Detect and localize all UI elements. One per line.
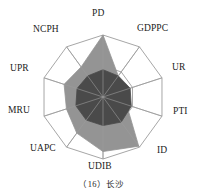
axis-label-ur: UR <box>172 63 185 73</box>
axis-label-pd: PD <box>92 9 104 19</box>
radar-chart-figure: PDGDPPCURPTIIDUDIBUAPCMRUUPRNCPH （16）长沙 <box>0 0 203 191</box>
axis-label-mru: MRU <box>8 106 30 116</box>
axis-label-id: ID <box>157 146 167 156</box>
axis-label-ncph: NCPH <box>33 25 59 35</box>
axis-label-gdppc: GDPPC <box>137 24 168 34</box>
axis-label-upr: UPR <box>10 64 29 74</box>
axis-label-uapc: UAPC <box>30 144 56 154</box>
axis-label-pti: PTI <box>173 107 188 117</box>
figure-caption: （16）长沙 <box>0 180 203 189</box>
axis-label-udib: UDIB <box>88 162 112 172</box>
